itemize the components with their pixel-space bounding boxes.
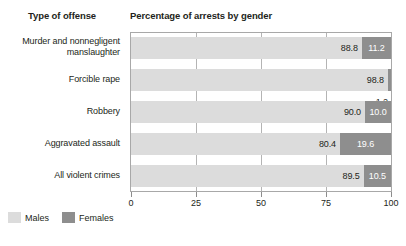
- x-axis-tick-label: 75: [321, 198, 331, 208]
- category-labels: Murder and nonnegligentmanslaughterForci…: [0, 32, 126, 192]
- bar-segment-females: [388, 69, 391, 91]
- bar-row: 89.510.5: [131, 165, 391, 187]
- x-axis-ticks: [130, 192, 392, 197]
- legend-item-males: Males: [8, 212, 49, 223]
- legend-item-females: Females: [62, 212, 114, 223]
- category-label: All violent crimes: [0, 170, 120, 181]
- plot-area: 88.811.298.81.290.010.080.419.689.510.5: [130, 32, 392, 192]
- bar-value-females: 10.0: [365, 101, 391, 123]
- legend-swatch-males-icon: [8, 212, 21, 223]
- x-axis-tick: [131, 192, 132, 197]
- chart-figure: Type of offense Percentage of arrests by…: [0, 0, 406, 246]
- bar-value-males: 90.0: [131, 101, 361, 123]
- chart-legend: Males Females: [8, 212, 122, 223]
- x-axis-tick: [326, 192, 327, 197]
- bar-value-males: 89.5: [131, 165, 360, 187]
- bar-row: 90.010.0: [131, 101, 391, 123]
- category-label: Aggravated assault: [0, 138, 120, 149]
- x-axis-tick-label: 25: [191, 198, 201, 208]
- category-label: Forcible rape: [0, 74, 120, 85]
- x-axis-tick-label: 0: [128, 198, 133, 208]
- bar-row: 88.811.2: [131, 37, 391, 59]
- bar-value-females: 11.2: [362, 37, 391, 59]
- bar-value-males: 98.8: [131, 69, 384, 91]
- bar-value-females: 19.6: [340, 133, 391, 155]
- bar-row: 80.419.6: [131, 133, 391, 155]
- legend-label-males: Males: [25, 213, 49, 223]
- chart-title: Percentage of arrests by gender: [130, 10, 272, 21]
- bar-value-males: 88.8: [131, 37, 358, 59]
- legend-swatch-females-icon: [62, 212, 75, 223]
- x-axis-labels: 0255075100: [130, 198, 392, 212]
- x-axis-tick: [196, 192, 197, 197]
- bar-value-males: 80.4: [131, 133, 336, 155]
- bar-row: 98.81.2: [131, 69, 391, 91]
- x-axis-tick-label: 100: [383, 198, 398, 208]
- x-axis-tick: [261, 192, 262, 197]
- x-axis-tick: [391, 192, 392, 197]
- bar-value-females: 10.5: [364, 165, 391, 187]
- legend-label-females: Females: [79, 213, 114, 223]
- x-axis-tick-label: 50: [256, 198, 266, 208]
- category-label: Robbery: [0, 106, 120, 117]
- category-column-header: Type of offense: [0, 10, 124, 21]
- category-label: Murder and nonnegligentmanslaughter: [0, 36, 120, 58]
